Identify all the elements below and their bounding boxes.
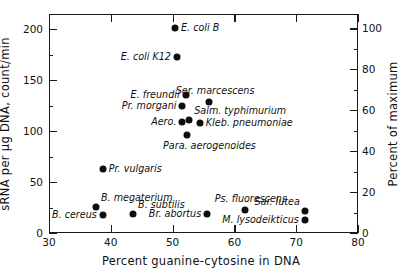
data-point [186, 116, 193, 123]
x-axis-tick-label: 30 [42, 237, 55, 248]
x-axis-tick-major [296, 225, 297, 233]
y-axis-right-tick-label: 80 [362, 64, 375, 75]
x-axis-tick-major [234, 225, 235, 233]
data-point-label: Pr. vulgaris [109, 164, 162, 174]
data-point-label: E. freundii [131, 91, 180, 101]
data-point-label: E. coli B [181, 23, 219, 33]
data-point-label: Salm. typhimurium [194, 106, 286, 116]
data-point-label: Aero. [151, 117, 176, 127]
x-axis-tick-major [111, 225, 112, 233]
data-point-label: M. lysodeikticus [222, 215, 299, 225]
y-axis-tick-major [49, 131, 57, 132]
y-axis-tick-label: 50 [10, 177, 43, 188]
plot-frame [49, 14, 358, 233]
y-axis-tick-major [49, 182, 57, 183]
data-point-label: Br. abortus [149, 209, 201, 219]
x-axis-tick-label: 80 [351, 237, 364, 248]
y-axis-right-tick-major [350, 110, 358, 111]
data-point [196, 119, 203, 126]
y-axis-right-tick-label: 40 [362, 146, 375, 157]
data-point [99, 165, 106, 172]
y-axis-tick-label: 100 [10, 126, 43, 137]
data-point [204, 210, 211, 217]
data-point-label: Para. aerogenoides [163, 141, 256, 151]
y-axis-title-left: sRNA per µg DNA, count/min [0, 37, 12, 211]
y-axis-right-tick-minor [354, 49, 358, 50]
x-axis-tick-label: 60 [228, 237, 241, 248]
y-axis-right-tick-major [350, 69, 358, 70]
data-point [179, 102, 186, 109]
y-axis-title-right: Percent of maximum [386, 61, 400, 186]
y-axis-tick-major [49, 80, 57, 81]
data-point-label: Ser. marcescens [176, 86, 255, 96]
y-axis-tick-minor [49, 106, 53, 107]
y-axis-right-tick-minor [354, 213, 358, 214]
y-axis-right-tick-major [350, 233, 358, 234]
data-point-label: Kleb. pneumoniae [206, 118, 293, 128]
data-point [130, 210, 137, 217]
data-point [206, 98, 213, 105]
x-axis-tick-major-top [111, 14, 112, 22]
data-point [173, 53, 180, 60]
x-axis-tick-major-top [234, 14, 235, 22]
y-axis-right-tick-minor [354, 131, 358, 132]
x-axis-tick-label: 40 [104, 237, 117, 248]
y-axis-right-tick-major [350, 192, 358, 193]
data-point-label: B. cereus [52, 210, 97, 220]
data-point-label: Sar. lutea [254, 197, 299, 207]
y-axis-right-tick-label: 60 [362, 105, 375, 116]
x-axis-tick-major [49, 225, 50, 233]
x-axis-tick-label: 70 [290, 237, 303, 248]
y-axis-tick-major [49, 233, 57, 234]
data-point [172, 25, 179, 32]
y-axis-right-tick-minor [354, 172, 358, 173]
data-point-label: Pr. morgani [122, 101, 177, 111]
x-axis-tick-major [358, 225, 359, 233]
data-point [301, 207, 308, 214]
y-axis-tick-label: 200 [10, 24, 43, 35]
y-axis-tick-label: 150 [10, 75, 43, 86]
x-axis-title: Percent guanine-cytosine in DNA [102, 254, 300, 268]
scatter-plot-figure: 050100150200020406080100304050607080 E. … [0, 0, 402, 272]
y-axis-right-tick-label: 100 [362, 23, 382, 34]
x-axis-tick-major-top [296, 14, 297, 22]
y-axis-right-tick-minor [354, 90, 358, 91]
x-axis-tick-major-top [358, 14, 359, 22]
x-axis-tick-major-top [173, 14, 174, 22]
y-axis-right-tick-major [350, 151, 358, 152]
x-axis-tick-label: 50 [166, 237, 179, 248]
y-axis-tick-minor [49, 55, 53, 56]
data-point [301, 216, 308, 223]
data-point [99, 211, 106, 218]
x-axis-tick-major-top [49, 14, 50, 22]
data-point [179, 118, 186, 125]
y-axis-tick-label: 0 [10, 228, 43, 239]
y-axis-tick-minor [49, 157, 53, 158]
data-point [184, 132, 191, 139]
data-point [241, 206, 248, 213]
y-axis-right-tick-major [350, 28, 358, 29]
data-point-label: E. coli K12 [121, 52, 171, 62]
y-axis-tick-major [49, 29, 57, 30]
x-axis-tick-major [173, 225, 174, 233]
y-axis-right-tick-label: 20 [362, 187, 375, 198]
